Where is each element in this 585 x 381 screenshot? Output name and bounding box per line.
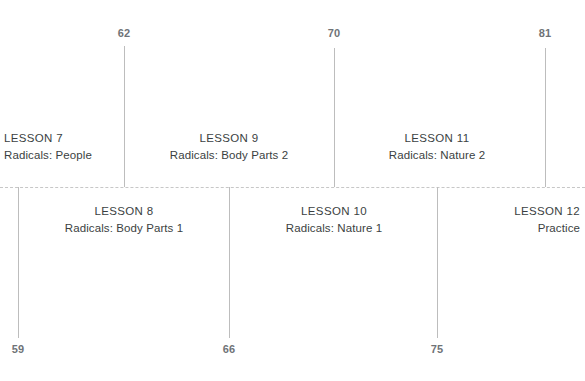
endpoint-label-bottom-75: 75 bbox=[431, 343, 444, 355]
lesson-stem-10 bbox=[334, 48, 335, 187]
endpoint-label-top-62: 62 bbox=[118, 27, 131, 39]
lesson-subtitle-11: Radicals: Nature 2 bbox=[389, 147, 485, 164]
timeline-axis bbox=[0, 187, 585, 188]
lesson-title-7: LESSON 7 bbox=[4, 130, 92, 147]
lesson-subtitle-12: Practice bbox=[514, 220, 580, 237]
lesson-stem-7 bbox=[18, 187, 19, 338]
lesson-subtitle-9: Radicals: Body Parts 2 bbox=[170, 147, 289, 164]
lesson-block-12[interactable]: LESSON 12 Practice bbox=[514, 203, 580, 237]
lesson-stem-9 bbox=[229, 187, 230, 338]
lesson-block-9[interactable]: LESSON 9 Radicals: Body Parts 2 bbox=[170, 130, 289, 164]
lesson-stem-11 bbox=[437, 187, 438, 338]
lesson-title-8: LESSON 8 bbox=[65, 203, 184, 220]
lesson-subtitle-7: Radicals: People bbox=[4, 147, 92, 164]
endpoint-label-bottom-59: 59 bbox=[12, 343, 25, 355]
lesson-stem-12 bbox=[545, 48, 546, 187]
lesson-block-11[interactable]: LESSON 11 Radicals: Nature 2 bbox=[389, 130, 485, 164]
endpoint-label-top-81: 81 bbox=[539, 27, 552, 39]
lesson-block-10[interactable]: LESSON 10 Radicals: Nature 1 bbox=[286, 203, 382, 237]
lesson-subtitle-10: Radicals: Nature 1 bbox=[286, 220, 382, 237]
lesson-title-9: LESSON 9 bbox=[170, 130, 289, 147]
lesson-block-7[interactable]: LESSON 7 Radicals: People bbox=[4, 130, 92, 164]
lesson-title-10: LESSON 10 bbox=[286, 203, 382, 220]
lesson-timeline-diagram: 62 70 81 59 66 75 LESSON 7 Radicals: Peo… bbox=[0, 0, 585, 381]
lesson-title-12: LESSON 12 bbox=[514, 203, 580, 220]
lesson-title-11: LESSON 11 bbox=[389, 130, 485, 147]
endpoint-label-top-70: 70 bbox=[328, 27, 341, 39]
lesson-block-8[interactable]: LESSON 8 Radicals: Body Parts 1 bbox=[65, 203, 184, 237]
endpoint-label-bottom-66: 66 bbox=[223, 343, 236, 355]
lesson-stem-8 bbox=[124, 46, 125, 187]
lesson-subtitle-8: Radicals: Body Parts 1 bbox=[65, 220, 184, 237]
